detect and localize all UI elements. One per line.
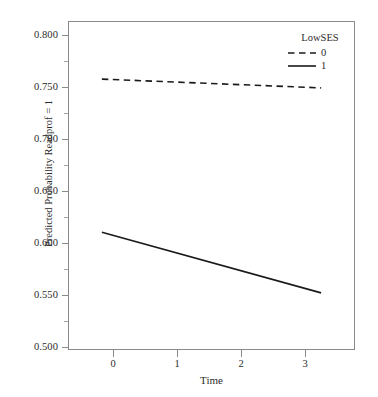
y-tick-label: 0.500: [14, 341, 58, 352]
x-tick-major: [241, 350, 242, 357]
legend-label: 0: [321, 47, 326, 58]
legend-solid-line-icon: [287, 61, 317, 71]
legend-dashed-line-icon: [287, 48, 317, 58]
x-tick-label: 3: [293, 358, 317, 369]
legend-label: 1: [321, 60, 326, 71]
x-axis-title: Time: [68, 374, 355, 386]
legend-item-1[interactable]: 1: [287, 59, 363, 72]
series-line-1: [102, 232, 321, 293]
plot-area: LowSES 0 1: [68, 21, 355, 350]
legend-item-0[interactable]: 0: [287, 46, 363, 59]
x-tick-label: 1: [165, 358, 189, 369]
x-tick-major: [113, 350, 114, 357]
chart-figure: 0.800 0.750 0.700 0.650 0.600 0.550 0.50…: [0, 0, 378, 397]
x-tick-major: [177, 350, 178, 357]
x-tick-label: 0: [101, 358, 125, 369]
series-line-0: [102, 79, 321, 88]
y-axis-title: Predicted Probability Readprof = 1: [43, 29, 54, 319]
x-tick-major: [305, 350, 306, 357]
legend: LowSES 0 1: [287, 32, 363, 72]
x-tick-label: 2: [229, 358, 253, 369]
legend-title: LowSES: [287, 32, 363, 43]
